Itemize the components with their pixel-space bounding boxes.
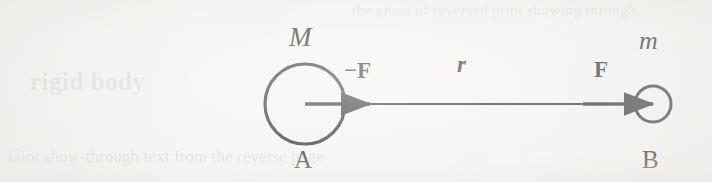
label-separation-r: r [457,52,466,78]
label-force-f: F [594,57,608,83]
label-mass-large: M [289,22,312,53]
label-mass-small: m [639,26,658,56]
label-body-b: B [642,146,659,174]
diagram-canvas [0,0,712,182]
label-force-negative-f: −F [344,58,371,84]
label-body-a: A [294,146,312,174]
force-diagram-figure: the ghost of reversed print showing thro… [0,0,712,182]
